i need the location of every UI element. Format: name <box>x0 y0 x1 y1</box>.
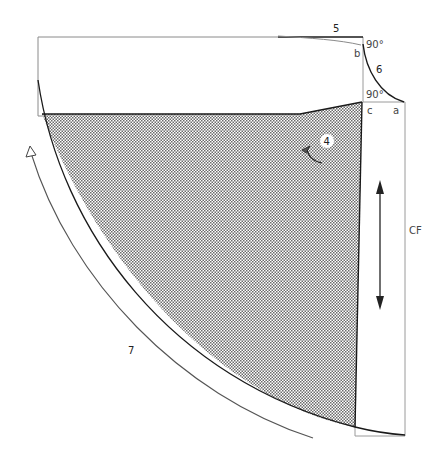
seam-6-label: 6 <box>376 64 382 75</box>
pattern-diagram: 5 90° b 6 90° c a CF 4 7 <box>0 0 439 460</box>
point-a-label: a <box>393 105 399 116</box>
grainline-arrow-icon <box>376 180 384 310</box>
point-b-label: b <box>354 48 360 59</box>
angle-bottom-label: 90° <box>366 89 384 100</box>
angle-top-label: 90° <box>366 39 384 50</box>
hatched-panel <box>42 102 362 427</box>
seam-5-label: 5 <box>333 23 339 34</box>
arrow-7-label: 7 <box>128 345 134 356</box>
point-c-label: c <box>367 105 373 116</box>
yoke-outline <box>38 37 278 116</box>
step-4-label: 4 <box>324 136 330 147</box>
center-front-label: CF <box>409 225 422 236</box>
